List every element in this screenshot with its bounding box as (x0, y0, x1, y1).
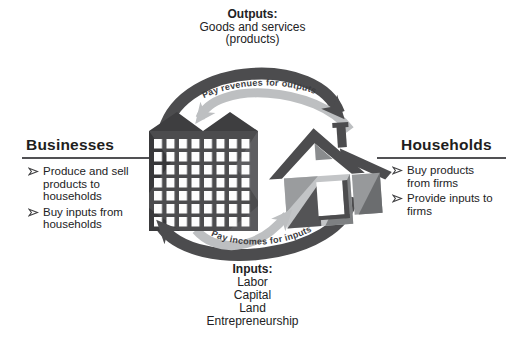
circular-flow-diagram: Pay revenues for outputs Pay incomes for… (0, 0, 513, 346)
bullet-text: Produce and sell products to households (43, 165, 150, 203)
list-item: Provide inputs to firms (392, 192, 495, 217)
outputs-block: Outputs: Goods and services (products) (145, 8, 360, 46)
inputs-block: Inputs: Labor Capital Land Entrepreneurs… (145, 263, 360, 328)
arrow-bullet-icon (28, 166, 43, 180)
businesses-bullets: Produce and sell products to households … (28, 165, 150, 231)
list-item: Produce and sell products to households (28, 165, 150, 203)
bullet-text: Buy products from firms (407, 164, 495, 189)
arrow-bullet-icon (28, 207, 43, 221)
bullet-text: Buy inputs from households (43, 206, 150, 231)
arrow-bullet-icon (392, 193, 407, 207)
outputs-heading: Outputs: (145, 8, 360, 21)
households-bullets: Buy products from firms Provide inputs t… (392, 164, 495, 217)
outputs-line2: (products) (145, 33, 360, 46)
list-item: Buy inputs from households (28, 206, 150, 231)
list-item: Buy products from firms (392, 164, 495, 189)
businesses-underline (22, 157, 149, 159)
households-underline (377, 157, 506, 159)
households-heading: Households (401, 136, 492, 154)
arrow-bullet-icon (392, 165, 407, 179)
businesses-heading: Businesses (26, 136, 114, 154)
income-arrowhead-icon (272, 214, 288, 232)
office-building-icon (149, 112, 258, 231)
inputs-item-entrepreneurship: Entrepreneurship (145, 315, 360, 328)
bullet-text: Provide inputs to firms (407, 192, 495, 217)
revenue-arrowhead-icon (199, 102, 212, 119)
